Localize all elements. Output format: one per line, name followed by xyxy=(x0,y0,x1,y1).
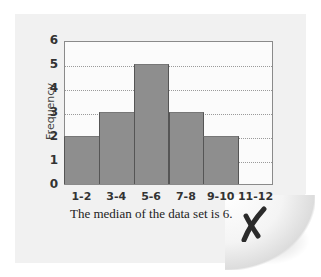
bar-1-2 xyxy=(64,136,100,184)
y-tick: 4 xyxy=(42,81,58,95)
y-tick: 6 xyxy=(42,33,58,47)
x-tick: 3-4 xyxy=(98,190,135,203)
x-mark-icon xyxy=(238,206,268,242)
bar-7-8 xyxy=(169,112,205,184)
x-tick: 1-2 xyxy=(63,190,100,203)
y-tick: 5 xyxy=(42,57,58,71)
y-tick: 3 xyxy=(42,105,58,119)
caption: The median of the data set is 6. xyxy=(70,206,232,222)
x-tick: 11-12 xyxy=(237,190,274,203)
x-tick: 5-6 xyxy=(133,190,170,203)
y-tick: 2 xyxy=(42,129,58,143)
y-tick: 1 xyxy=(42,153,58,167)
bar-3-4 xyxy=(99,112,135,184)
x-tick: 9-10 xyxy=(202,190,239,203)
plot-area xyxy=(64,41,273,185)
x-tick: 7-8 xyxy=(168,190,205,203)
bar-5-6 xyxy=(134,64,170,184)
y-tick: 0 xyxy=(42,177,58,191)
bar-9-10 xyxy=(203,136,239,184)
